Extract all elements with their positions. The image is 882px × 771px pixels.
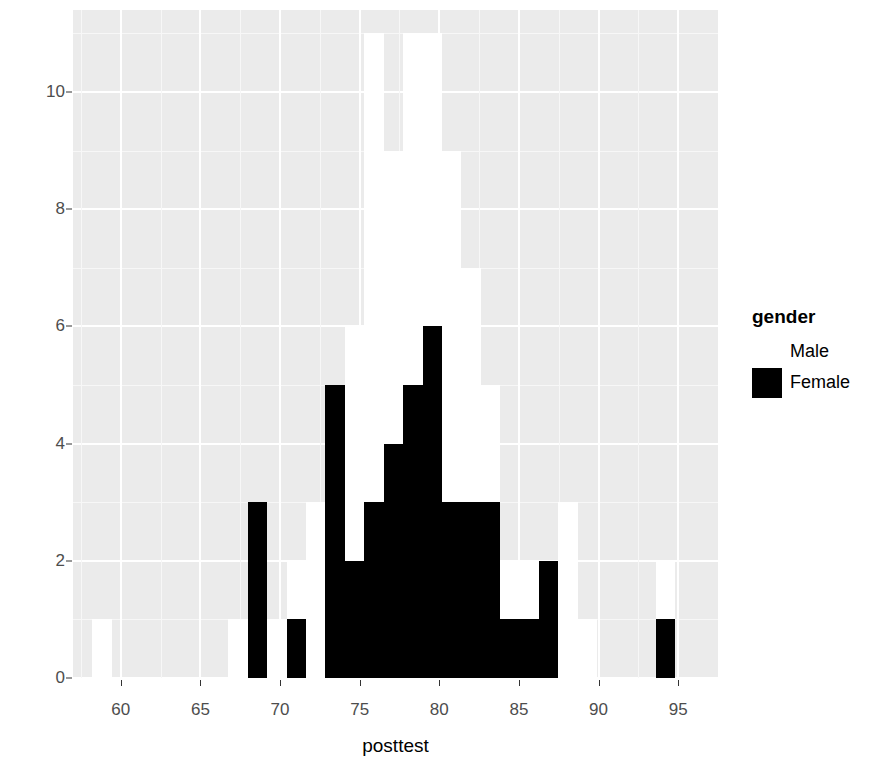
bar-segment-female (461, 502, 480, 678)
x-tick-mark (439, 680, 440, 686)
bar-segment-female (384, 444, 403, 678)
x-axis-title: posttest (73, 735, 718, 757)
legend-label-male: Male (790, 341, 829, 362)
bar-segment-female (656, 619, 675, 678)
gridline-h-major (73, 91, 718, 93)
y-tick-mark (66, 560, 72, 561)
x-tick-mark (519, 680, 520, 686)
y-tick-mark (66, 92, 72, 93)
x-tick-mark (360, 680, 361, 686)
bar-segment-female (520, 619, 539, 678)
x-tick-label: 85 (489, 700, 549, 720)
legend: gender Male Female (752, 306, 882, 398)
bar-segment-female (364, 502, 383, 678)
bar-segment-female (423, 326, 442, 678)
y-tick-mark (66, 209, 72, 210)
bar-segment-female (345, 561, 364, 678)
x-tick-mark (200, 680, 201, 686)
legend-swatch-female (752, 368, 782, 398)
x-tick-mark (280, 680, 281, 686)
y-tick-mark (66, 678, 72, 679)
y-axis-title: count (2, 0, 32, 30)
bar-segment-male (403, 33, 422, 385)
bar-segment-male (364, 33, 383, 502)
x-tick-label: 95 (648, 700, 708, 720)
bar-segment-female (325, 385, 344, 678)
y-tick-label: 10 (25, 82, 65, 102)
gridline-v-major (120, 10, 122, 678)
bar-segment-female (481, 502, 500, 678)
gridline-v-minor (161, 10, 162, 678)
plot-panel (73, 10, 718, 678)
gridline-v-major (677, 10, 679, 678)
y-tick-mark (66, 443, 72, 444)
legend-title: gender (752, 306, 882, 328)
histogram-chart: count 0246810 6065707580859095 posttest … (0, 0, 882, 771)
x-tick-label: 60 (91, 700, 151, 720)
bar-segment-male (578, 619, 597, 678)
x-tick-label: 65 (170, 700, 230, 720)
bar-segment-female (248, 502, 267, 678)
gridline-h-minor (73, 33, 718, 34)
bar-segment-male (384, 151, 403, 444)
x-tick-label: 80 (409, 700, 469, 720)
bar-segment-male (558, 502, 577, 678)
gridline-v-major (199, 10, 201, 678)
gridline-v-minor (240, 10, 241, 678)
bar-segment-male (267, 619, 286, 678)
bar-segment-male (442, 151, 461, 503)
y-tick-label: 0 (25, 668, 65, 688)
bar-segment-male (423, 33, 442, 326)
y-tick-label: 2 (25, 551, 65, 571)
x-tick-mark (599, 680, 600, 686)
bar-segment-female (500, 619, 519, 678)
legend-swatch-male (752, 337, 782, 367)
x-tick-label: 75 (330, 700, 390, 720)
bar-segment-male (656, 561, 675, 620)
bar-segment-male (481, 385, 500, 502)
legend-label-female: Female (790, 372, 850, 393)
legend-item-female[interactable]: Female (752, 367, 882, 398)
bar-segment-male (228, 619, 247, 678)
y-tick-mark (66, 326, 72, 327)
bar-segment-female (539, 561, 558, 678)
bar-segment-male (345, 326, 364, 560)
bar-segment-male (306, 502, 325, 678)
bar-segment-male (461, 268, 480, 502)
bar-segment-female (403, 385, 422, 678)
gridline-v-major (279, 10, 281, 678)
gridline-v-major (598, 10, 600, 678)
x-tick-mark (678, 680, 679, 686)
gridline-v-minor (81, 10, 82, 678)
y-tick-label: 4 (25, 434, 65, 454)
x-tick-label: 70 (250, 700, 310, 720)
x-tick-mark (121, 680, 122, 686)
x-tick-label: 90 (569, 700, 629, 720)
bar-segment-female (442, 502, 461, 678)
legend-item-male[interactable]: Male (752, 336, 882, 367)
y-tick-label: 6 (25, 316, 65, 336)
bar-segment-male (287, 561, 306, 620)
bar-segment-male (520, 561, 539, 620)
bar-segment-male (500, 561, 519, 620)
y-tick-label: 8 (25, 199, 65, 219)
gridline-v-minor (638, 10, 639, 678)
bar-segment-female (287, 619, 306, 678)
bar-segment-male (92, 619, 111, 678)
